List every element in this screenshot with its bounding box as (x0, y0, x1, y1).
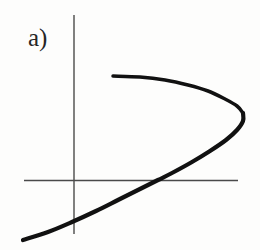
figure-panel: a) (0, 0, 260, 250)
panel-label: a) (28, 25, 47, 50)
